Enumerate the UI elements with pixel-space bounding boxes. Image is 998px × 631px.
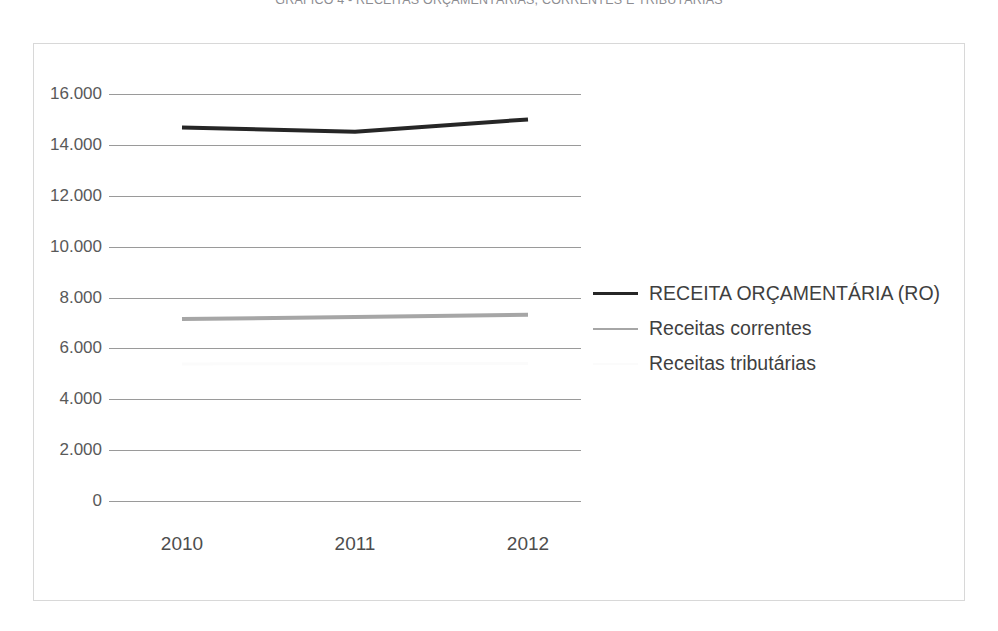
legend-line-icon [593,328,638,330]
series-line [182,119,528,131]
legend-item[interactable]: RECEITA ORÇAMENTÁRIA (RO) [593,276,958,311]
x-axis-tick-label: 2010 [161,533,203,555]
legend-line-icon [593,363,638,365]
plot-area: 02.0004.0006.0008.00010.00012.00014.0001… [34,44,966,602]
chart-frame: 02.0004.0006.0008.00010.00012.00014.0001… [33,43,965,601]
legend-label: Receitas correntes [649,317,812,340]
legend-item[interactable]: Receitas tributárias [593,346,958,381]
legend-label: Receitas tributárias [649,352,816,375]
chart-legend: RECEITA ORÇAMENTÁRIA (RO)Receitas corren… [593,276,958,381]
x-axis-tick-label: 2012 [507,533,549,555]
series-line [182,315,528,319]
legend-line-icon [593,292,638,295]
series-line [182,363,528,364]
chart-title: GRÁFICO 4 - RECEITAS ORÇAMENTÁRIAS, CORR… [0,0,998,7]
legend-item[interactable]: Receitas correntes [593,311,958,346]
legend-label: RECEITA ORÇAMENTÁRIA (RO) [649,282,940,305]
x-axis-tick-label: 2011 [335,533,376,555]
